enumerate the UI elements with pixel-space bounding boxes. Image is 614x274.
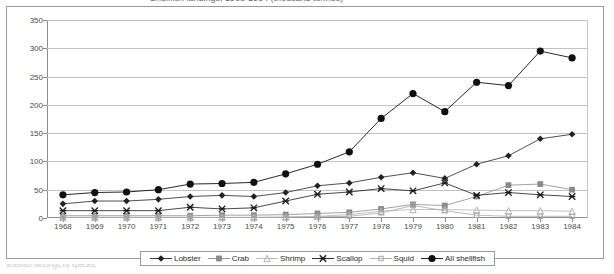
y-tick-label: 0 bbox=[3, 214, 43, 223]
data-point bbox=[378, 174, 385, 181]
legend-marker-square-icon bbox=[208, 253, 230, 264]
y-tick-label: 250 bbox=[3, 72, 43, 81]
y-tick-label: 50 bbox=[3, 185, 43, 194]
y-tick-label: 100 bbox=[3, 157, 43, 166]
data-point bbox=[282, 170, 289, 177]
data-point bbox=[505, 152, 512, 159]
data-point bbox=[569, 193, 575, 199]
y-tick-label: 350 bbox=[3, 16, 43, 25]
legend-label: Squid bbox=[394, 254, 414, 263]
data-point bbox=[537, 192, 543, 198]
legend-item-shrimp[interactable]: Shrimp bbox=[256, 253, 305, 264]
legend-item-scallop[interactable]: Scallop bbox=[312, 253, 362, 264]
clipped-footer-strip: Shellfish landings by species bbox=[4, 264, 304, 274]
data-point bbox=[346, 180, 353, 187]
data-point bbox=[569, 187, 575, 193]
data-point bbox=[187, 204, 193, 210]
plot-area: 050100150200250300350 196819691970197119… bbox=[47, 20, 588, 218]
legend-item-squid[interactable]: Squid bbox=[370, 253, 414, 264]
data-point bbox=[505, 82, 512, 89]
data-point bbox=[282, 198, 288, 204]
data-point bbox=[410, 188, 416, 194]
data-point bbox=[410, 169, 417, 176]
data-point bbox=[346, 189, 352, 195]
data-point bbox=[569, 131, 576, 138]
data-point bbox=[187, 180, 194, 187]
data-point bbox=[409, 90, 416, 97]
data-point bbox=[537, 181, 543, 187]
legend-label: Lobster bbox=[174, 254, 201, 263]
data-point bbox=[219, 206, 225, 212]
series-layer bbox=[47, 20, 588, 218]
legend-item-lobster[interactable]: Lobster bbox=[150, 253, 201, 264]
legend-label: Crab bbox=[232, 254, 249, 263]
data-point bbox=[505, 189, 511, 195]
legend-label: Scallop bbox=[336, 254, 362, 263]
data-point bbox=[251, 193, 258, 200]
data-point bbox=[473, 79, 480, 86]
chart-screenshot: Shellfish landings, 1968-1984 (thousand … bbox=[0, 0, 614, 274]
legend-marker-small-square-icon bbox=[370, 253, 392, 264]
data-point bbox=[91, 189, 98, 196]
legend-marker-circle-icon bbox=[421, 253, 443, 264]
data-point bbox=[314, 182, 321, 189]
data-point bbox=[250, 179, 257, 186]
data-point bbox=[314, 191, 320, 197]
chart-title-clipped: Shellfish landings, 1968-1984 (thousand … bbox=[150, 0, 343, 3]
data-point bbox=[506, 182, 512, 188]
data-point bbox=[346, 148, 353, 155]
data-point bbox=[537, 48, 544, 55]
data-point bbox=[378, 115, 385, 122]
series-all-shellfish bbox=[59, 48, 575, 199]
series-line bbox=[63, 51, 572, 195]
x-tick-label: 1984 bbox=[552, 222, 592, 231]
legend-marker-diamond-icon bbox=[150, 253, 172, 264]
data-point bbox=[378, 185, 384, 191]
legend-marker-star-icon bbox=[312, 253, 334, 264]
data-point bbox=[251, 205, 257, 211]
data-point bbox=[219, 192, 226, 199]
data-point bbox=[59, 191, 66, 198]
data-point bbox=[155, 186, 162, 193]
data-point bbox=[218, 180, 225, 187]
data-point bbox=[123, 188, 130, 195]
y-tick-mark bbox=[43, 218, 47, 219]
data-point bbox=[187, 193, 194, 200]
series-lobster bbox=[60, 131, 576, 207]
data-point bbox=[123, 198, 130, 205]
data-point bbox=[282, 189, 289, 196]
data-point bbox=[441, 108, 448, 115]
data-point bbox=[155, 196, 162, 203]
data-point bbox=[60, 201, 67, 208]
data-point bbox=[568, 54, 575, 61]
y-tick-label: 200 bbox=[3, 100, 43, 109]
data-point bbox=[91, 198, 98, 205]
data-point bbox=[314, 161, 321, 168]
chart-frame: 050100150200250300350 196819691970197119… bbox=[6, 6, 604, 259]
legend-label: Shrimp bbox=[280, 254, 305, 263]
y-tick-label: 300 bbox=[3, 44, 43, 53]
footer-caption-clipped: Shellfish landings by species bbox=[6, 264, 96, 268]
legend-item-crab[interactable]: Crab bbox=[208, 253, 249, 264]
legend-item-all-shellfish[interactable]: All shellfish bbox=[421, 253, 485, 264]
y-tick-label: 150 bbox=[3, 129, 43, 138]
legend-marker-triangle-icon bbox=[256, 253, 278, 264]
data-point bbox=[473, 161, 480, 168]
data-point bbox=[537, 136, 544, 143]
legend-label: All shellfish bbox=[445, 254, 485, 263]
